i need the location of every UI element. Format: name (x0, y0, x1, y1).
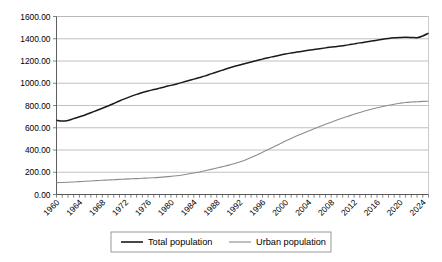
x-axis-labels-group: 1960196419681972197619801984198819921996… (41, 197, 428, 217)
x-axis-tick-label: 1968 (87, 197, 107, 217)
x-axis-tick-label: 2020 (385, 197, 405, 217)
y-axis-tick-label: 1400.00 (20, 34, 51, 44)
x-axis-tick-label: 2004 (293, 197, 313, 217)
series-line-urban-population (57, 101, 429, 182)
gridlines-group (57, 17, 429, 195)
x-axis-tick-label: 1960 (41, 197, 61, 217)
y-axis-labels-group: 0.00200.00400.00600.00800.001000.001200.… (20, 12, 51, 200)
legend-label-urban-population: Urban population (256, 237, 326, 247)
y-axis-tick-label: 200.00 (25, 167, 51, 177)
y-axis-tick-label: 800.00 (25, 101, 51, 111)
x-axis-tick-label: 2012 (339, 197, 359, 217)
x-axis-tick-label: 1988 (201, 197, 221, 217)
y-tick-marks-group (53, 17, 57, 195)
x-axis-tick-label: 1984 (179, 197, 199, 217)
y-axis-tick-label: 1000.00 (20, 78, 51, 88)
x-axis-tick-label: 1992 (224, 197, 244, 217)
y-axis-tick-label: 1600.00 (20, 12, 51, 22)
y-axis-tick-label: 0.00 (34, 190, 51, 200)
data-series-group (57, 33, 429, 182)
legend-label-total-population: Total population (148, 237, 212, 247)
x-axis-tick-label: 1964 (64, 197, 84, 217)
x-axis-tick-label: 1972 (110, 197, 130, 217)
x-axis-tick-label: 1976 (133, 197, 153, 217)
y-axis-tick-label: 1200.00 (20, 56, 51, 66)
x-axis-tick-label: 2024 (407, 197, 427, 217)
chart-legend: Total populationUrban population (111, 232, 331, 252)
x-axis-tick-label: 2000 (270, 197, 290, 217)
chart-canvas: 0.00200.00400.00600.00800.001000.001200.… (0, 0, 442, 262)
x-axis-tick-label: 2016 (362, 197, 382, 217)
x-tick-marks-group (57, 195, 429, 198)
x-axis-tick-label: 1980 (156, 197, 176, 217)
series-line-total-population (57, 33, 429, 121)
y-axis-tick-label: 600.00 (25, 123, 51, 133)
y-axis-tick-label: 400.00 (25, 145, 51, 155)
x-axis-tick-label: 1996 (247, 197, 267, 217)
population-line-chart: 0.00200.00400.00600.00800.001000.001200.… (0, 0, 442, 262)
x-axis-tick-label: 2008 (316, 197, 336, 217)
